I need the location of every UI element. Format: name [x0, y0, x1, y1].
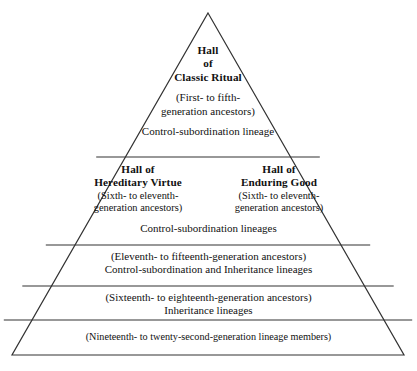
tier-4-detail-line-1: (Sixteenth- to eighteenth-generation anc…	[24, 291, 393, 304]
tier-sixteenth-to-eighteenth-generation: (Sixteenth- to eighteenth-generation anc…	[24, 291, 393, 317]
hereditary-virtue-heading-line-2: Hereditary Virtue	[76, 176, 201, 189]
tier-5-detail-line-1: (Nineteenth- to twenty-second-generation…	[12, 331, 405, 343]
hall-of-hereditary-virtue: Hall of Hereditary Virtue (Sixth- to ele…	[76, 163, 201, 215]
pyramid-diagram: Hall of Classic Ritual (First- to fifth-…	[0, 0, 417, 371]
tier-2-footer-line-1: Control-subordination lineages	[46, 222, 371, 235]
enduring-good-heading-line-2: Enduring Good	[217, 176, 342, 189]
tier-1-spacer	[108, 84, 308, 91]
tier-1-heading-line-2: of	[108, 57, 308, 70]
enduring-good-heading-line-1: Hall of	[217, 163, 342, 176]
tier-1-heading-line-3: Classic Ritual	[108, 71, 308, 84]
tier-hereditary-virtue-and-enduring-good: Hall of Hereditary Virtue (Sixth- to ele…	[46, 163, 371, 235]
tier-1-detail-line-1: (First- to fifth-	[108, 91, 308, 104]
hereditary-virtue-heading-line-1: Hall of	[76, 163, 201, 176]
tier-eleventh-to-fifteenth-generation: (Eleventh- to fifteenth-generation ances…	[34, 250, 383, 276]
tier-4-detail-line-2: Inheritance lineages	[24, 304, 393, 317]
tier-nineteenth-to-twenty-second-generation: (Nineteenth- to twenty-second-generation…	[12, 331, 405, 343]
hereditary-virtue-detail-line-1: (Sixth- to eleventh-	[76, 190, 201, 202]
tier-3-detail-line-2: Control-subordination and Inheritance li…	[34, 263, 383, 276]
enduring-good-detail-line-1: (Sixth- to eleventh-	[217, 190, 342, 202]
tier-1-footer-line-1: Control-subordination lineage	[108, 125, 308, 138]
hereditary-virtue-detail-line-2: generation ancestors)	[76, 202, 201, 214]
tier-3-detail-line-1: (Eleventh- to fifteenth-generation ances…	[34, 250, 383, 263]
tier-1-spacer-2	[108, 118, 308, 125]
tier-1-detail-line-2: generation ancestors)	[108, 105, 308, 118]
hall-pair: Hall of Hereditary Virtue (Sixth- to ele…	[46, 163, 371, 215]
hall-of-enduring-good: Hall of Enduring Good (Sixth- to elevent…	[217, 163, 342, 215]
tier-hall-of-classic-ritual: Hall of Classic Ritual (First- to fifth-…	[108, 44, 308, 138]
tier-1-heading-line-1: Hall	[108, 44, 308, 57]
enduring-good-detail-line-2: generation ancestors)	[217, 202, 342, 214]
